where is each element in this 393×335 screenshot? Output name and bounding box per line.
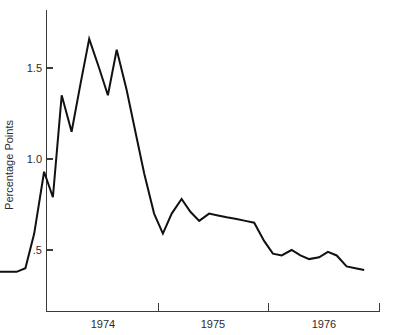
y-axis-title: Percentage Points (3, 120, 15, 210)
x-tick-label-1974: 1974 (91, 318, 115, 330)
x-tick-label-1976: 1976 (312, 318, 336, 330)
y-tick-label-0-5: .5 (33, 244, 42, 256)
y-tick-label-1-5: 1.5 (27, 62, 42, 74)
x-tick-label-1975: 1975 (201, 318, 225, 330)
y-tick-label-1-0: 1.0 (27, 153, 42, 165)
plot-background (0, 0, 393, 335)
line-chart: 1.5 1.0 .5 Percentage Points 1974 1975 1… (0, 0, 393, 335)
chart-container: 1.5 1.0 .5 Percentage Points 1974 1975 1… (0, 0, 393, 335)
